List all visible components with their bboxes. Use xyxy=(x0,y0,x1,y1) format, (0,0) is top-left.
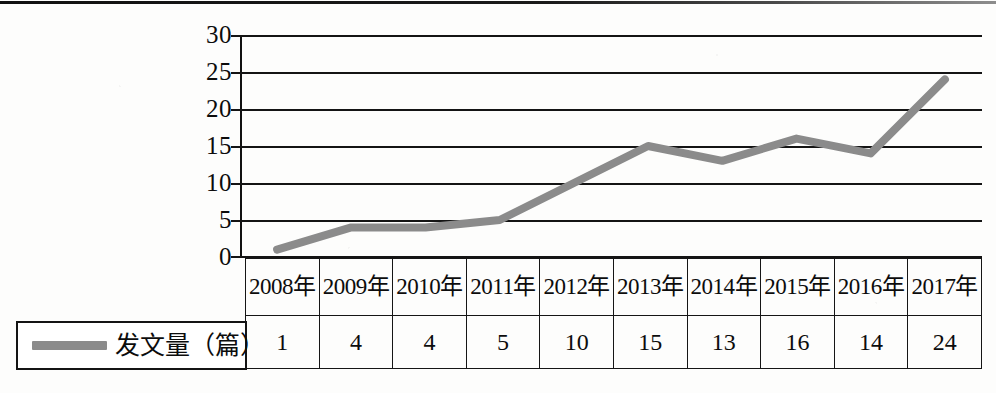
value-cell-8: 14 xyxy=(834,316,908,369)
y-tick-15 xyxy=(231,146,240,148)
legend-label: 发文量（篇） xyxy=(115,332,265,359)
table-row-values: 1 4 4 5 10 15 13 16 14 24 xyxy=(246,316,982,369)
series-line-chart xyxy=(240,35,982,257)
y-tick-label-0: 0 xyxy=(178,244,232,269)
year-cell-6: 2014年 xyxy=(687,259,761,316)
y-tick-label-25: 25 xyxy=(178,59,232,84)
y-tick-label-20: 20 xyxy=(178,96,232,121)
value-cell-1: 4 xyxy=(319,316,393,369)
y-tick-label-5: 5 xyxy=(178,207,232,232)
chart-plot-area xyxy=(240,35,982,257)
value-cell-6: 13 xyxy=(687,316,761,369)
year-cell-2: 2010年 xyxy=(393,259,467,316)
year-cell-9: 2017年 xyxy=(908,259,982,316)
year-cell-4: 2012年 xyxy=(540,259,614,316)
value-cell-5: 15 xyxy=(613,316,687,369)
y-tick-label-30: 30 xyxy=(178,22,232,47)
data-table: 2008年 2009年 2010年 2011年 2012年 2013年 2014… xyxy=(245,258,982,369)
value-cell-2: 4 xyxy=(393,316,467,369)
data-table-container: 2008年 2009年 2010年 2011年 2012年 2013年 2014… xyxy=(245,258,982,370)
year-cell-3: 2011年 xyxy=(466,259,540,316)
year-cell-8: 2016年 xyxy=(834,259,908,316)
y-tick-label-10: 10 xyxy=(178,170,232,195)
value-cell-4: 10 xyxy=(540,316,614,369)
y-tick-25 xyxy=(231,72,240,74)
y-tick-label-15: 15 xyxy=(178,133,232,158)
value-cell-9: 24 xyxy=(908,316,982,369)
chart-legend: 发文量（篇） xyxy=(16,321,247,370)
series-polyline-发文量 xyxy=(277,79,945,249)
y-tick-10 xyxy=(231,183,240,185)
y-tick-20 xyxy=(231,109,240,111)
page-top-rule xyxy=(0,1,996,4)
y-axis-labels: 30 25 20 15 10 5 0 xyxy=(176,35,232,257)
year-cell-7: 2015年 xyxy=(761,259,835,316)
value-cell-7: 16 xyxy=(761,316,835,369)
legend-line-swatch-icon xyxy=(32,341,107,350)
year-cell-5: 2013年 xyxy=(613,259,687,316)
table-row-years: 2008年 2009年 2010年 2011年 2012年 2013年 2014… xyxy=(246,259,982,316)
year-cell-1: 2009年 xyxy=(319,259,393,316)
y-tick-0 xyxy=(231,256,240,258)
page-canvas: 30 25 20 15 10 5 0 2008年 2009年 xyxy=(0,0,996,393)
y-tick-5 xyxy=(231,220,240,222)
y-tick-30 xyxy=(231,35,240,37)
value-cell-3: 5 xyxy=(466,316,540,369)
year-cell-0: 2008年 xyxy=(246,259,320,316)
